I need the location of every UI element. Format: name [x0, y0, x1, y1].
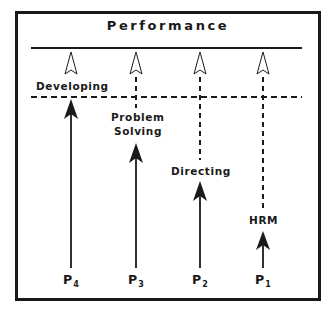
level-p3-sub: 3: [138, 280, 144, 289]
hollow-arrow-icon-p2: [194, 52, 206, 74]
level-p2-sub: 2: [202, 280, 208, 289]
hollow-arrow-icon-p3: [130, 52, 142, 74]
label-developing: Developing: [36, 80, 109, 92]
level-p3-base: P: [128, 272, 137, 287]
level-p1-base: P: [255, 272, 264, 287]
hollow-arrow-icon-p4: [65, 52, 77, 74]
level-label-p4: P4: [63, 272, 79, 289]
hollow-arrow-icon-p1: [257, 52, 269, 74]
level-label-p1: P1: [255, 272, 271, 289]
level-p4-base: P: [63, 272, 72, 287]
level-p4-sub: 4: [73, 280, 79, 289]
diagram-frame: [17, 13, 320, 300]
performance-diagram: Performance Developing Problem Solving D…: [0, 0, 333, 314]
level-p1-sub: 1: [265, 280, 271, 289]
hollow-arrow-icons: [65, 52, 269, 74]
label-solving: Solving: [114, 125, 162, 137]
level-p2-base: P: [192, 272, 201, 287]
level-label-p3: P3: [128, 272, 144, 289]
label-problem: Problem: [111, 111, 164, 123]
label-hrm: HRM: [249, 214, 278, 226]
label-directing: Directing: [171, 165, 231, 177]
diagram-title: Performance: [0, 18, 333, 33]
level-label-p2: P2: [192, 272, 208, 289]
